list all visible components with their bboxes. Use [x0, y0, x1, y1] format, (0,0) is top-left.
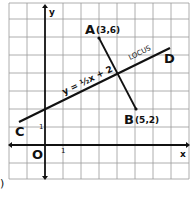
figure-marker: )	[0, 177, 4, 190]
origin-label: O	[32, 147, 43, 162]
point-c-label: C	[15, 124, 25, 139]
x-axis-label: x	[180, 149, 186, 159]
y-unit-label: 1	[39, 123, 43, 131]
point-b-label: B	[124, 112, 134, 127]
point-a	[97, 36, 100, 39]
point-d-label: D	[164, 51, 175, 66]
locus-line	[19, 48, 170, 122]
point-a-coords: (3,6)	[96, 25, 120, 35]
point-b	[134, 107, 137, 110]
x-unit-label: 1	[61, 147, 65, 155]
point-b-coords: (5,2)	[135, 115, 159, 125]
y-axis-label: y	[49, 7, 55, 17]
coordinate-diagram: y x O 1 1 C D y = ½x + 2 LOCUS A (3,6) B…	[0, 0, 192, 197]
point-a-label: A	[85, 22, 95, 37]
